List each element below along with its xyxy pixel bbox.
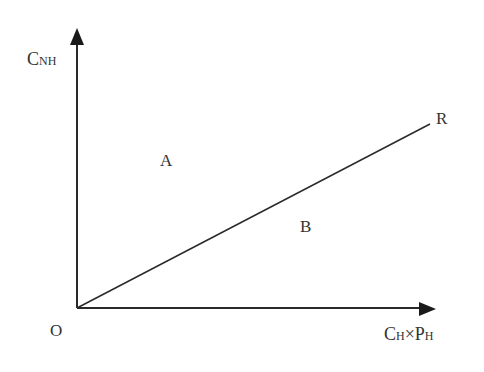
y-axis-label-subscript: NH <box>39 54 56 68</box>
y-axis-label: CNH <box>27 50 56 68</box>
line-r-label: R <box>436 110 447 127</box>
x-axis-label: CH×PH <box>384 325 434 343</box>
x-axis-label-c-sub: H <box>396 329 405 343</box>
x-axis-label-c: C <box>384 324 396 344</box>
diagram-canvas <box>0 0 484 372</box>
region-a-label: A <box>160 152 172 169</box>
y-axis-arrowhead <box>70 28 84 45</box>
line-r <box>77 124 430 308</box>
origin-label: O <box>50 322 62 339</box>
x-axis-label-p: P <box>415 324 425 344</box>
region-b-label: B <box>300 218 311 235</box>
x-axis-label-p-sub: H <box>425 329 434 343</box>
x-axis-arrowhead <box>419 302 436 316</box>
x-axis-label-times: × <box>405 324 415 344</box>
y-axis-label-main: C <box>27 49 39 69</box>
